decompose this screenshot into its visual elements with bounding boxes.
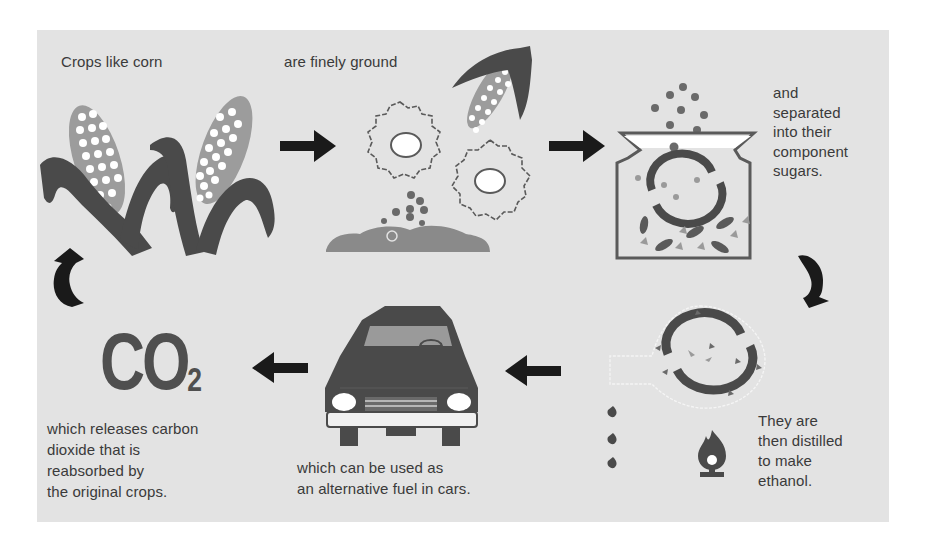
curved-arrow-up-icon — [48, 245, 88, 310]
arrow-left-icon — [250, 349, 310, 385]
car-icon — [0, 0, 925, 550]
